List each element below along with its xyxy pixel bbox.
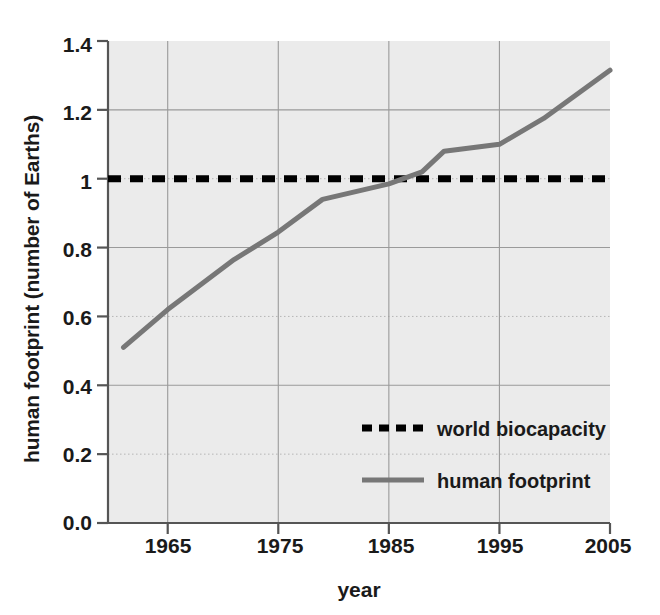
- x-tick-label-1995: 1995: [455, 534, 545, 558]
- x-axis-title: year: [108, 578, 610, 602]
- y-tick-label-1: 0.2: [32, 443, 92, 467]
- y-tick-label-7: 1.4: [32, 33, 92, 57]
- legend-label-human-footprint: human footprint: [437, 470, 591, 492]
- y-tick-label-group: 0.0 0.2 0.4 0.6 0.8 1 1.2 1.4: [28, 0, 92, 615]
- x-tick-label-1975: 1975: [235, 534, 325, 558]
- y-tick-label-0: 0.0: [32, 511, 92, 535]
- y-tick-label-5: 1: [32, 170, 92, 194]
- chart-figure: human footprint (number of Earths) 0.0 0…: [0, 0, 660, 615]
- legend-label-world-biocapacity: world biocapacity: [436, 418, 607, 440]
- x-tick-label-1985: 1985: [346, 534, 436, 558]
- plot-area: world biocapacity human footprint: [0, 0, 660, 615]
- y-tick-label-2: 0.4: [32, 375, 92, 399]
- x-tick-label-1965: 1965: [123, 534, 213, 558]
- y-tick-label-4: 0.8: [32, 238, 92, 262]
- plot-background: [108, 41, 610, 523]
- x-tick-label-2005: 2005: [563, 534, 653, 558]
- y-tick-label-3: 0.6: [32, 306, 92, 330]
- y-tick-label-6: 1.2: [32, 101, 92, 125]
